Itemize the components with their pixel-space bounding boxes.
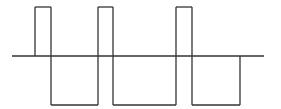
waveform-diagram [0, 0, 281, 109]
waveform-canvas [0, 0, 281, 109]
